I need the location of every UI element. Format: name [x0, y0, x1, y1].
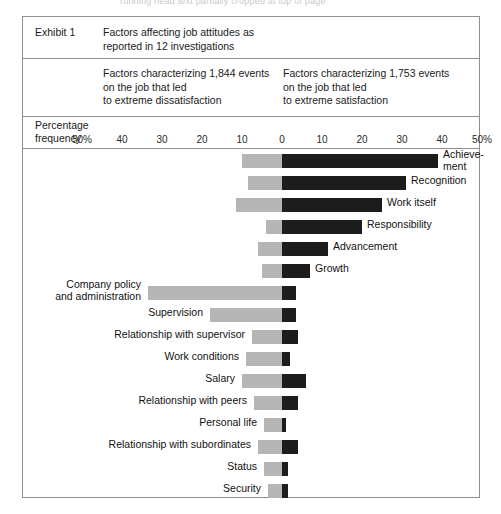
bar-dissatisfaction — [210, 308, 282, 322]
axis-tick-10: 50% — [472, 134, 492, 145]
chart-row: Achieve- ment — [23, 151, 479, 173]
chart-row: Advancement — [23, 239, 479, 261]
bar-satisfaction — [282, 396, 298, 410]
bar-dissatisfaction — [242, 154, 282, 168]
bar-dissatisfaction — [266, 220, 282, 234]
axis-tick-4: 10 — [236, 134, 247, 145]
bar-dissatisfaction — [268, 484, 282, 498]
bar-satisfaction — [282, 264, 310, 278]
chart-row-label: Relationship with subordinates — [109, 438, 251, 450]
bar-satisfaction — [282, 198, 382, 212]
chart-row-label: Status — [227, 460, 257, 472]
bar-dissatisfaction — [254, 396, 282, 410]
chart-row-label: Supervision — [148, 306, 203, 318]
bar-satisfaction — [282, 440, 298, 454]
bar-satisfaction — [282, 462, 288, 476]
chart-row-label: Work itself — [387, 196, 436, 208]
axis-tick-0: 50% — [72, 134, 92, 145]
chart-row: Supervision — [23, 305, 479, 327]
chart-row: Company policy and administration — [23, 283, 479, 305]
axis-tick-3: 20 — [196, 134, 207, 145]
chart-row: Relationship with peers — [23, 393, 479, 415]
bar-satisfaction — [282, 374, 306, 388]
chart-row-label: Responsibility — [367, 218, 432, 230]
bar-satisfaction — [282, 220, 362, 234]
bar-dissatisfaction — [252, 330, 282, 344]
bar-dissatisfaction — [248, 176, 282, 190]
bar-dissatisfaction — [236, 198, 282, 212]
bar-satisfaction — [282, 418, 286, 432]
bar-dissatisfaction — [262, 264, 282, 278]
axis-tick-6: 10 — [316, 134, 327, 145]
chart-row-label: Personal life — [199, 416, 257, 428]
bar-satisfaction — [282, 484, 288, 498]
chart-row-label: Relationship with supervisor — [114, 328, 245, 340]
running-head-text: running head text partially cropped at t… — [120, 0, 326, 6]
chart-row-label: Relationship with peers — [138, 394, 247, 406]
bar-satisfaction — [282, 286, 296, 300]
axis-tick-8: 30 — [396, 134, 407, 145]
exhibit-title: Factors affecting job attitudes as repor… — [103, 26, 433, 53]
axis-header: Percentage frequency 50%4030201001020304… — [23, 117, 479, 149]
exhibit-frame: Exhibit 1 Factors affecting job attitude… — [22, 16, 480, 498]
chart-row-label: Work conditions — [164, 350, 239, 362]
chart-row: Work itself — [23, 195, 479, 217]
bar-dissatisfaction — [258, 440, 282, 454]
bar-satisfaction — [282, 330, 298, 344]
chart-row-label: Achieve- ment — [443, 148, 484, 172]
chart-row: Security — [23, 481, 479, 503]
bar-satisfaction — [282, 154, 438, 168]
axis-tick-5: 0 — [279, 134, 285, 145]
satisfaction-caption: Factors characterizing 1,753 events on t… — [283, 67, 493, 108]
bar-dissatisfaction — [148, 286, 282, 300]
exhibit-header-row: Exhibit 1 Factors affecting job attitude… — [23, 17, 479, 59]
bar-dissatisfaction — [264, 462, 282, 476]
page-running-head-artifact: running head text partially cropped at t… — [0, 0, 501, 12]
chart-row: Relationship with supervisor — [23, 327, 479, 349]
chart-row: Personal life — [23, 415, 479, 437]
chart-row: Salary — [23, 371, 479, 393]
axis-tick-1: 40 — [116, 134, 127, 145]
bar-satisfaction — [282, 242, 328, 256]
axis-tick-2: 30 — [156, 134, 167, 145]
chart-row-label: Growth — [315, 262, 349, 274]
exhibit-number-label: Exhibit 1 — [35, 26, 75, 38]
exhibit-page: running head text partially cropped at t… — [0, 0, 501, 514]
bar-dissatisfaction — [246, 352, 282, 366]
chart-row-label: Company policy and administration — [55, 278, 141, 302]
bar-satisfaction — [282, 308, 296, 322]
chart-row: Relationship with subordinates — [23, 437, 479, 459]
chart-row-label: Salary — [205, 372, 235, 384]
bar-dissatisfaction — [258, 242, 282, 256]
chart-row: Responsibility — [23, 217, 479, 239]
chart-row-label: Security — [223, 482, 261, 494]
axis-tick-7: 20 — [356, 134, 367, 145]
bar-dissatisfaction — [242, 374, 282, 388]
chart-row: Status — [23, 459, 479, 481]
diverging-bar-chart: Achieve- mentRecognitionWork itselfRespo… — [23, 149, 479, 498]
axis-tick-9: 40 — [436, 134, 447, 145]
chart-row: Work conditions — [23, 349, 479, 371]
bar-satisfaction — [282, 176, 406, 190]
chart-row-label: Advancement — [333, 240, 397, 252]
exhibit-captions-row: Factors characterizing 1,844 events on t… — [23, 59, 479, 117]
chart-row-label: Recognition — [411, 174, 466, 186]
chart-row: Recognition — [23, 173, 479, 195]
bar-satisfaction — [282, 352, 290, 366]
bar-dissatisfaction — [264, 418, 282, 432]
